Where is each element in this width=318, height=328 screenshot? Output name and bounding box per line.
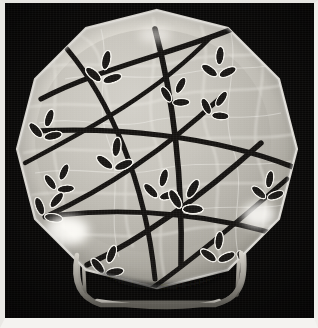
glare-left <box>45 216 89 246</box>
photograph-container: Black and white photograph of a pressed … <box>0 0 318 328</box>
glare-right <box>242 202 276 228</box>
glare-top <box>139 27 171 43</box>
photo-image-area <box>5 3 314 318</box>
plate-scene <box>5 3 314 318</box>
glass-plate <box>17 10 299 290</box>
